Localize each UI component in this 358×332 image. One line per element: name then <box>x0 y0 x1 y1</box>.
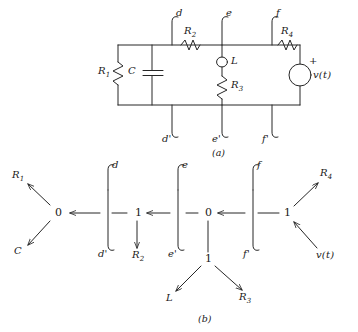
bondgraph-terminal-label-f: f <box>257 160 261 170</box>
bond-label-vt: v(t) <box>316 250 334 260</box>
bondgraph-terminal-label-d-prime: d' <box>98 249 108 259</box>
terminal-e-prime-line <box>222 105 228 137</box>
junction-1-bottom: 1 <box>205 253 212 264</box>
figure-vector-layer <box>0 0 358 332</box>
bond-label-r3: R3 <box>239 292 251 305</box>
bond-label-r4: R4 <box>320 168 332 181</box>
r1-zigzag <box>113 62 123 85</box>
bondgraph-terminal-label-d: d <box>112 160 119 170</box>
bondgraph-terminal-f-prime-line <box>253 190 259 250</box>
bondgraph-terminal-d-prime-line <box>108 190 114 250</box>
bond-j0left-to-c <box>28 221 50 245</box>
terminal-e-line <box>222 17 228 45</box>
terminal-label-f: f <box>276 8 280 18</box>
source-polarity-plus: + <box>309 56 317 66</box>
bond-j1bottom-to-r3 <box>215 266 242 290</box>
caption-b: (b) <box>198 313 212 324</box>
bondgraph-terminal-label-e: e <box>182 160 188 170</box>
terminal-label-e-prime: e' <box>212 134 221 144</box>
voltage-source-circle <box>289 64 311 86</box>
caption-a: (a) <box>212 147 225 158</box>
bondgraph-terminal-e-prime-line <box>178 190 184 250</box>
bond-label-c: C <box>14 246 22 256</box>
l-inductor-loop <box>217 57 228 67</box>
bond-label-r2: R2 <box>132 250 144 263</box>
terminal-label-e: e <box>226 8 232 18</box>
r3-zigzag <box>217 76 227 99</box>
label-r1-circuit: R1 <box>98 66 110 79</box>
junction-1-left: 1 <box>135 207 142 218</box>
terminal-label-f-prime: f' <box>262 134 269 144</box>
label-r3-circuit: R3 <box>231 80 243 93</box>
bond-label-r1: R1 <box>12 170 24 183</box>
bond-j0left-to-r1 <box>28 184 50 205</box>
terminal-f-line <box>272 17 278 45</box>
figure-circuit-and-bond-graph: R1 C R2 L R3 R4 + v(t) d e f d' e' f' (a… <box>0 0 358 332</box>
bondgraph-terminal-label-f-prime: f' <box>243 249 250 259</box>
bond-graph-b <box>28 165 318 291</box>
junction-0-center: 0 <box>205 207 212 218</box>
label-l-circuit: L <box>231 56 238 66</box>
terminal-d-line <box>172 17 178 45</box>
junction-1-right: 1 <box>284 207 291 218</box>
terminal-d-prime-line <box>172 105 178 137</box>
bond-j1bottom-to-l <box>176 266 201 291</box>
bondgraph-terminal-label-e-prime: e' <box>168 249 177 259</box>
terminal-label-d-prime: d' <box>162 134 172 144</box>
bond-j1right-to-r4 <box>294 183 318 206</box>
terminal-label-d: d <box>176 8 183 18</box>
bond-vt-to-j1right <box>294 222 317 248</box>
label-vt-circuit: v(t) <box>313 70 331 80</box>
label-r4-circuit: R4 <box>281 26 293 39</box>
label-r2-circuit: R2 <box>184 26 196 39</box>
terminal-f-prime-line <box>272 105 278 137</box>
label-c-circuit: C <box>128 66 136 76</box>
bond-label-l: L <box>166 293 173 303</box>
junction-0-left: 0 <box>55 207 62 218</box>
